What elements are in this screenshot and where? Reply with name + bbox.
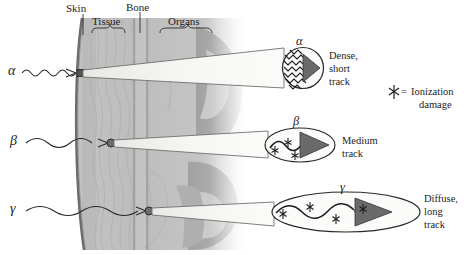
- label-beta-detail: β: [293, 114, 299, 129]
- label-organs: Organs: [168, 15, 200, 27]
- desc-beta-line2: track: [342, 148, 363, 160]
- label-alpha-ray: α: [8, 63, 15, 79]
- gamma-detail-ellipse: [272, 192, 420, 232]
- desc-gamma-line3: track: [424, 219, 445, 231]
- label-bone: Bone: [126, 1, 149, 13]
- desc-alpha-line2: short: [329, 63, 350, 75]
- label-gamma-ray: γ: [10, 201, 16, 217]
- label-skin: Skin: [66, 2, 86, 14]
- label-gamma-detail: γ: [340, 180, 345, 195]
- desc-gamma-line2: long: [424, 206, 443, 218]
- label-alpha-detail: α: [296, 34, 303, 49]
- legend-equals: =: [401, 86, 407, 98]
- desc-alpha-line1: Dense,: [329, 50, 358, 62]
- legend-star-icon: [389, 85, 399, 99]
- radiation-penetration-diagram: [0, 0, 476, 255]
- alpha-incoming-wave: [22, 70, 76, 76]
- label-beta-ray: β: [10, 133, 17, 149]
- desc-beta-line1: Medium: [342, 135, 378, 147]
- legend-line1: Ionization: [411, 86, 454, 98]
- desc-gamma-line1: Diffuse,: [424, 193, 458, 205]
- desc-alpha-line3: track: [329, 76, 350, 88]
- legend-line2: damage: [419, 99, 452, 111]
- label-tissue: Tissue: [92, 15, 120, 27]
